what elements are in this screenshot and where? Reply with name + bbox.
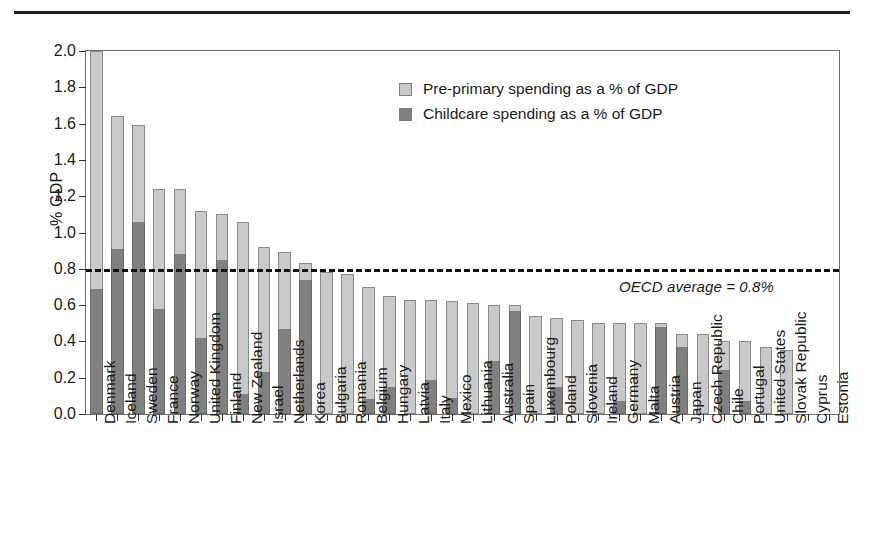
chart-legend: Pre-primary spending as a % of GDP Child…	[399, 80, 678, 130]
y-axis-tick-label: 0.8	[54, 261, 76, 277]
plot-inner: % GDP 0.00.20.40.60.81.01.21.41.61.82.0 …	[86, 51, 839, 414]
x-axis-category-label: Mexico	[457, 374, 475, 424]
x-axis-category-label: Belgium	[373, 367, 391, 424]
x-axis-category-label: Israel	[269, 385, 287, 424]
y-axis-tick-label: 1.8	[54, 79, 76, 95]
x-axis-category-label: Australia	[499, 363, 517, 424]
x-axis-category-label: Chile	[729, 388, 747, 424]
x-axis-category-label: Spain	[520, 384, 538, 424]
bar-segment-pre-primary	[425, 300, 438, 380]
legend-swatch-pre-primary	[399, 83, 412, 96]
bar-segment-pre-primary	[90, 51, 103, 289]
y-axis-tick	[79, 378, 86, 379]
x-axis-category-label: Romania	[352, 361, 370, 424]
x-axis-category-label: Poland	[562, 375, 580, 424]
x-axis-category-label: Lithuania	[478, 360, 496, 424]
legend-swatch-childcare	[399, 108, 412, 121]
bar-segment-pre-primary	[174, 189, 187, 254]
x-axis-category-label: Korea	[311, 382, 329, 424]
bar-segment-pre-primary	[216, 214, 229, 259]
x-axis-category-label: New Zealand	[248, 332, 266, 424]
x-axis-category-label: Latvia	[415, 382, 433, 424]
x-axis-category-label: Bulgaria	[332, 366, 350, 424]
bar-segment-pre-primary	[153, 189, 166, 309]
x-axis-category-label: Sweden	[143, 367, 161, 424]
x-axis-category-label: Hungary	[394, 365, 412, 424]
y-axis-tick-label: 1.2	[54, 188, 76, 204]
chart-page: % GDP 0.00.20.40.60.81.01.21.41.61.82.0 …	[0, 0, 869, 546]
y-axis-tick-label: 1.6	[54, 116, 76, 132]
x-axis-category-label: Ireland	[603, 376, 621, 424]
y-axis-tick-label: 2.0	[54, 43, 76, 59]
legend-item-childcare: Childcare spending as a % of GDP	[399, 105, 678, 123]
y-axis-tick	[79, 196, 86, 197]
x-axis-category-label: Cyprus	[813, 374, 831, 424]
x-axis-category-label: United Kingdom	[206, 312, 224, 424]
x-axis-category-label: Luxembourg	[541, 337, 559, 424]
x-axis-tick	[96, 414, 97, 421]
bar-segment-pre-primary	[676, 334, 689, 347]
bar-segment-pre-primary	[132, 125, 145, 221]
y-axis-tick-label: 1.0	[54, 225, 76, 241]
x-axis-category-label: Japan	[687, 381, 705, 424]
oecd-average-label: OECD average = 0.8%	[619, 278, 774, 295]
oecd-average-line	[86, 269, 839, 272]
y-axis-tick	[79, 87, 86, 88]
bar-segment-pre-primary	[111, 116, 124, 248]
x-axis-category-label: Austria	[666, 375, 684, 424]
x-axis-category-label: Netherlands	[290, 339, 308, 424]
x-axis-category-label: Germany	[624, 360, 642, 424]
y-axis-tick	[79, 51, 86, 52]
y-axis-tick	[79, 414, 86, 415]
y-axis-tick-label: 0.4	[54, 333, 76, 349]
bar-segment-pre-primary	[278, 252, 291, 328]
y-axis-tick	[79, 124, 86, 125]
legend-label-childcare: Childcare spending as a % of GDP	[423, 105, 663, 123]
legend-label-pre-primary: Pre-primary spending as a % of GDP	[423, 80, 678, 98]
plot-area: % GDP 0.00.20.40.60.81.01.21.41.61.82.0 …	[85, 50, 840, 415]
y-axis-tick	[79, 305, 86, 306]
y-axis-tick	[79, 269, 86, 270]
x-axis-category-label: Czech Republic	[708, 314, 726, 424]
x-axis-category-label: United States	[771, 330, 789, 424]
y-axis-tick	[79, 233, 86, 234]
x-axis-category-label: Slovak Republic	[792, 311, 810, 424]
x-axis-category-label: France	[164, 375, 182, 424]
y-axis-tick-label: 0.0	[54, 406, 76, 422]
y-axis-tick	[79, 160, 86, 161]
x-axis-category-label: Slovenia	[583, 364, 601, 424]
x-axis-category-label: Norway	[185, 371, 203, 424]
y-axis-tick-label: 0.6	[54, 297, 76, 313]
top-divider-rule	[14, 11, 850, 14]
x-axis-category-label: Denmark	[101, 360, 119, 424]
y-axis-tick-label: 0.2	[54, 370, 76, 386]
x-axis-category-label: Iceland	[122, 373, 140, 424]
x-axis-category-label: Italy	[436, 395, 454, 424]
x-axis-category-label: Malta	[645, 386, 663, 424]
x-axis-category-label: Finland	[227, 372, 245, 424]
legend-item-pre-primary: Pre-primary spending as a % of GDP	[399, 80, 678, 98]
bar-segment-pre-primary	[488, 305, 501, 361]
x-axis-category-label: Estonia	[834, 372, 852, 424]
x-axis-category-label: Portugal	[750, 365, 768, 424]
y-axis-tick	[79, 341, 86, 342]
y-axis-tick-label: 1.4	[54, 152, 76, 168]
